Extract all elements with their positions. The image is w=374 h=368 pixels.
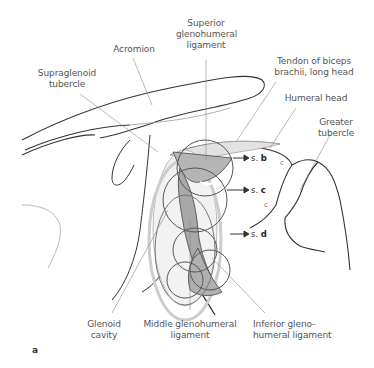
small-mark-c-upper: c bbox=[280, 158, 284, 168]
section-ref-b: s. b bbox=[251, 153, 267, 163]
section-ref-c: s. c bbox=[251, 185, 266, 195]
section-letter: c bbox=[261, 185, 266, 195]
label-line: Inferior gleno- bbox=[253, 319, 343, 330]
label-line: ligament bbox=[140, 330, 240, 341]
section-prefix: s. bbox=[251, 229, 258, 239]
label-line: Tendon of biceps bbox=[272, 56, 356, 67]
label-line: Glenoid bbox=[84, 319, 124, 330]
label-biceps-tendon: Tendon of biceps brachii, long head bbox=[272, 56, 356, 78]
label-line: humeral ligament bbox=[253, 330, 343, 341]
section-ref-d: s. d bbox=[251, 229, 267, 239]
label-middle-glenohumeral-ligament: Middle glenohumeral ligament bbox=[140, 319, 240, 341]
label-inferior-glenohumeral-ligament: Inferior gleno- humeral ligament bbox=[253, 319, 343, 341]
faint-contour bbox=[22, 205, 60, 268]
label-line: Humeral head bbox=[284, 93, 348, 104]
label-greater-tubercle: Greater tubercle bbox=[314, 117, 358, 139]
panel-label: a bbox=[32, 345, 38, 355]
label-line: brachii, long head bbox=[272, 67, 356, 78]
label-line: ligament bbox=[176, 40, 236, 51]
small-mark-c-lower: c bbox=[264, 200, 268, 210]
label-line: tubercle bbox=[314, 128, 358, 139]
label-glenoid-cavity: Glenoid cavity bbox=[84, 319, 124, 341]
label-line: glenohumeral bbox=[176, 29, 236, 40]
label-acromion: Acromion bbox=[108, 44, 160, 55]
section-letter: b bbox=[261, 153, 267, 163]
label-line: Superior bbox=[176, 18, 236, 29]
label-humeral-head: Humeral head bbox=[284, 93, 348, 104]
section-arrows bbox=[227, 155, 249, 237]
label-line: Middle glenohumeral bbox=[140, 319, 240, 330]
shoulder-anatomy-figure: Superior glenohumeral ligament Acromion … bbox=[0, 0, 374, 368]
label-superior-glenohumeral-ligament: Superior glenohumeral ligament bbox=[176, 18, 236, 51]
section-letter: d bbox=[261, 229, 267, 239]
label-line: cavity bbox=[84, 330, 124, 341]
section-prefix: s. bbox=[251, 185, 258, 195]
label-supraglenoid-tubercle: Supraglenoid tubercle bbox=[36, 68, 98, 90]
label-line: tubercle bbox=[36, 79, 98, 90]
label-line: Acromion bbox=[108, 44, 160, 55]
section-prefix: s. bbox=[251, 153, 258, 163]
label-line: Supraglenoid bbox=[36, 68, 98, 79]
label-line: Greater bbox=[314, 117, 358, 128]
